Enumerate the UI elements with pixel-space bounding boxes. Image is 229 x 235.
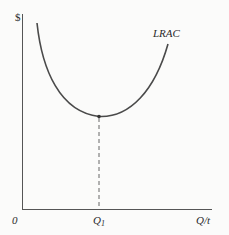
origin-label: 0: [12, 214, 18, 226]
lrac-chart: $ LRAC 0 Q1 Q/t: [0, 0, 229, 235]
minimum-point: [97, 115, 101, 119]
q1-label: Q1: [93, 214, 105, 228]
lrac-curve: [37, 23, 168, 117]
curve-label: LRAC: [152, 27, 181, 39]
y-axis-label: $: [15, 11, 21, 23]
x-axis-label: Q/t: [196, 214, 211, 226]
